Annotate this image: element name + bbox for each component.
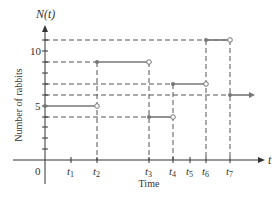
x-axis-title: t [268, 153, 272, 167]
step-arrow-icon [249, 92, 255, 98]
svg-text:t2: t2 [93, 165, 100, 179]
origin-label: 0 [35, 165, 41, 177]
svg-text:t7: t7 [226, 165, 233, 179]
svg-text:t3: t3 [145, 165, 152, 179]
open-dots [95, 38, 233, 120]
axes [13, 30, 262, 184]
closed-dots [43, 38, 232, 119]
y-axis-arrow-icon [42, 25, 48, 32]
x-tick-labels: t1 t2 t3 t4 t5 t6 t7 [67, 165, 233, 179]
y-axis-title: N(t) [35, 7, 55, 21]
y-tick-label-10: 10 [30, 45, 42, 57]
x-axis-arrow-icon [258, 157, 265, 163]
y-tick-label-5: 5 [35, 100, 41, 112]
chart-svg: N(t) t 10 5 0 Number of rabbits Time t1 … [0, 0, 277, 197]
svg-text:t5: t5 [186, 165, 193, 179]
y-label: Number of rabbits [13, 68, 24, 141]
svg-text:t1: t1 [67, 165, 74, 179]
svg-text:t6: t6 [202, 165, 209, 179]
svg-text:t4: t4 [169, 165, 176, 179]
step-segments [45, 40, 250, 117]
step-chart: N(t) t 10 5 0 Number of rabbits Time t1 … [0, 0, 277, 197]
x-label: Time [139, 178, 160, 189]
guide-lines [45, 40, 230, 160]
